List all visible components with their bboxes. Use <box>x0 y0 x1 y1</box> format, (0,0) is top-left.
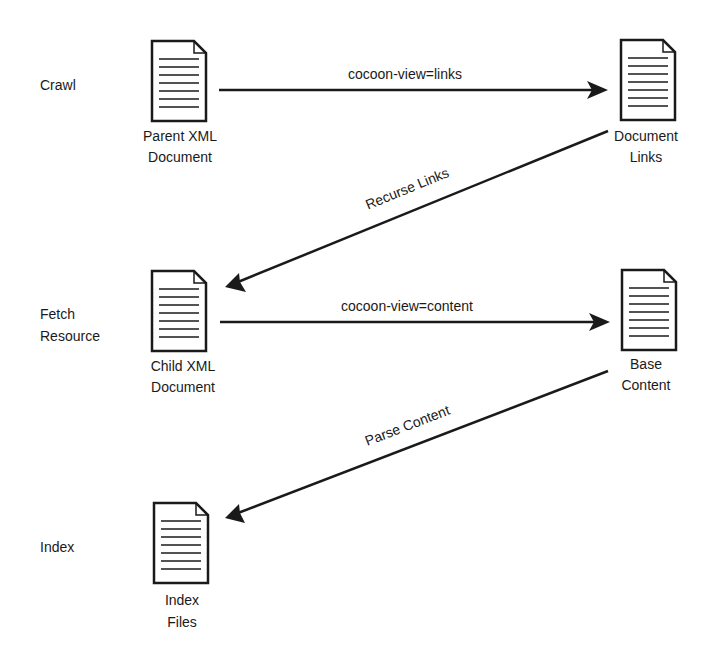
edge-label: Recurse Links <box>363 164 451 212</box>
node-label-line-2: Links <box>630 149 663 165</box>
stage-crawl-text: Crawl <box>40 77 76 93</box>
arrowhead-icon <box>225 504 245 523</box>
document-icon <box>621 40 675 120</box>
node-label-line-2: Document <box>151 379 215 395</box>
node-parent-xml-document: Parent XML Document <box>143 41 217 165</box>
node-index-files: Index Files <box>154 503 208 630</box>
edge-recurse-links: Recurse Links <box>225 131 608 292</box>
node-label-line-1: Base <box>630 356 662 372</box>
edge-cocoon-view-content: cocoon-view=content <box>220 298 610 331</box>
node-label-line-1: Document <box>614 128 678 144</box>
crawl-pipeline-diagram: Crawl Fetch Resource Index Parent XML Do… <box>0 0 719 660</box>
node-base-content: Base Content <box>621 270 676 393</box>
node-label-line-1: Child XML <box>151 358 216 374</box>
document-icon <box>154 503 208 583</box>
arrowhead-icon <box>225 273 246 292</box>
edge-cocoon-view-links: cocoon-view=links <box>219 66 608 99</box>
edge-parse-content: Parse Content <box>225 371 608 523</box>
node-label-line-1: Parent XML <box>143 128 217 144</box>
stage-index-text: Index <box>40 539 74 555</box>
document-icon <box>622 270 676 350</box>
node-label-line-2: Content <box>621 377 670 393</box>
edge-label: cocoon-view=content <box>341 298 473 314</box>
node-label-line-1: Index <box>165 592 199 608</box>
node-label-line-2: Document <box>148 149 212 165</box>
document-icon <box>152 271 206 351</box>
edge-label: Parse Content <box>363 402 452 449</box>
stage-label-fetch-resource: Fetch Resource <box>40 306 100 344</box>
edge-label: cocoon-view=links <box>348 66 462 82</box>
stage-fetch-text-1: Fetch <box>40 306 75 322</box>
stage-fetch-text-2: Resource <box>40 328 100 344</box>
node-child-xml-document: Child XML Document <box>151 271 216 395</box>
stage-label-crawl: Crawl <box>40 77 76 93</box>
node-label-line-2: Files <box>167 614 197 630</box>
node-document-links: Document Links <box>614 40 678 165</box>
stage-label-index: Index <box>40 539 74 555</box>
document-icon <box>152 41 206 121</box>
